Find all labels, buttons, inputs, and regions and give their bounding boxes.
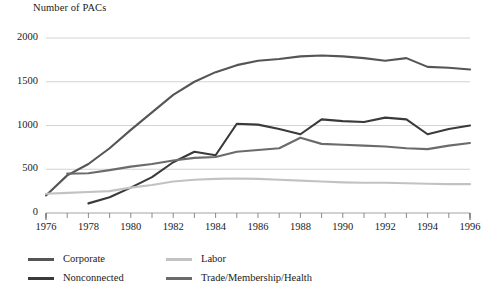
y-tick-label: 0 bbox=[2, 206, 38, 217]
legend-swatch-corporate bbox=[28, 258, 54, 261]
chart-figure: Number of PACs 0500100015002000 19761978… bbox=[0, 0, 486, 296]
legend-swatch-labor bbox=[166, 258, 192, 261]
legend-item-labor[interactable]: Labor bbox=[166, 253, 226, 265]
x-tick-label: 1986 bbox=[238, 221, 278, 232]
x-axis-ticks bbox=[46, 213, 470, 220]
legend-label-labor: Labor bbox=[201, 253, 226, 265]
legend-item-corporate[interactable]: Corporate bbox=[28, 253, 105, 265]
legend-item-nonconnected[interactable]: Nonconnected bbox=[28, 272, 124, 284]
legend-item-trade-membership-health[interactable]: Trade/Membership/Health bbox=[166, 272, 312, 284]
x-tick-label: 1984 bbox=[196, 221, 236, 232]
x-tick-label: 1980 bbox=[111, 221, 151, 232]
x-tick-label: 1976 bbox=[26, 221, 66, 232]
legend-row-1: Corporate Labor bbox=[28, 250, 105, 268]
legend-label-trade-membership-health: Trade/Membership/Health bbox=[201, 272, 312, 284]
series-lines bbox=[46, 56, 470, 204]
legend-label-nonconnected: Nonconnected bbox=[63, 272, 124, 284]
y-tick-label: 1500 bbox=[2, 75, 38, 86]
x-tick-label: 1990 bbox=[323, 221, 363, 232]
legend-row-2: Nonconnected Trade/Membership/Health bbox=[28, 269, 124, 287]
y-tick-label: 2000 bbox=[2, 31, 38, 42]
x-tick-label: 1982 bbox=[153, 221, 193, 232]
legend-label-corporate: Corporate bbox=[63, 253, 105, 265]
legend-swatch-nonconnected bbox=[28, 277, 54, 280]
chart-legend: Corporate Labor Nonconnected Trade/Membe… bbox=[28, 250, 468, 290]
x-tick-label: 1978 bbox=[68, 221, 108, 232]
x-tick-label: 1996 bbox=[450, 221, 486, 232]
y-tick-label: 500 bbox=[2, 162, 38, 173]
x-tick-label: 1988 bbox=[280, 221, 320, 232]
x-tick-label: 1992 bbox=[365, 221, 405, 232]
legend-swatch-trade-membership-health bbox=[166, 277, 192, 280]
x-tick-label: 1994 bbox=[408, 221, 448, 232]
series-line bbox=[67, 138, 470, 174]
y-tick-label: 1000 bbox=[2, 119, 38, 130]
series-line bbox=[88, 118, 470, 204]
series-line bbox=[46, 178, 470, 193]
